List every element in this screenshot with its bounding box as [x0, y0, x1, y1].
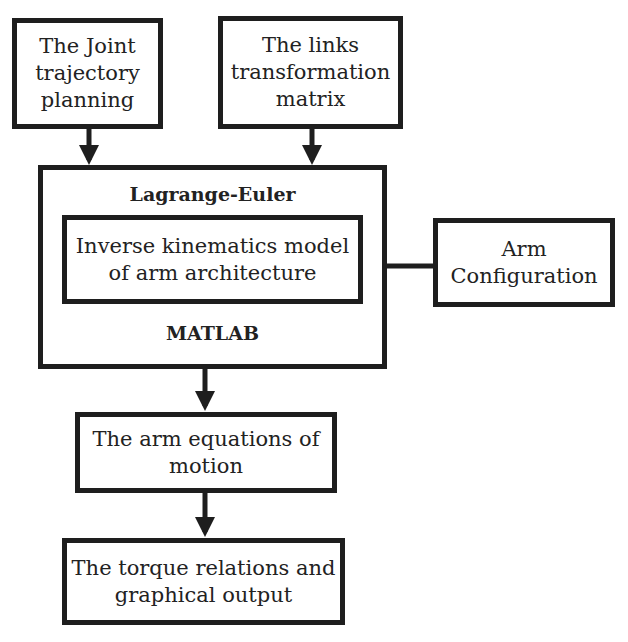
- node-arm-configuration: Arm Configuration: [433, 218, 615, 307]
- node-text-line: Configuration: [450, 263, 597, 290]
- node-inverse-kinematics: Inverse kinematics model of arm architec…: [62, 215, 363, 304]
- node-equations-of-motion: The arm equations of motion: [75, 412, 337, 493]
- node-text-line: trajectory: [35, 60, 140, 87]
- node-links-transformation: The links transformation matrix: [218, 16, 403, 129]
- node-text-line: Inverse kinematics model: [76, 233, 349, 260]
- node-text-line: The links: [262, 32, 359, 59]
- node-text-line: The torque relations and: [72, 555, 336, 582]
- node-text-line: of arm architecture: [109, 260, 317, 287]
- node-text-line: Arm: [501, 236, 546, 263]
- node-text-line: matrix: [276, 86, 345, 113]
- node-text-line: The arm equations of: [93, 426, 320, 453]
- node-text-line: transformation: [231, 59, 391, 86]
- node-text-line: The Joint: [39, 33, 135, 60]
- node-text-line: planning: [41, 87, 134, 114]
- node-text-line: graphical output: [115, 582, 292, 609]
- lagrange-euler-title: Lagrange-Euler: [38, 183, 387, 205]
- node-text-line: motion: [169, 453, 243, 480]
- node-joint-trajectory: The Joint trajectory planning: [12, 18, 163, 129]
- node-torque-relations: The torque relations and graphical outpu…: [62, 538, 345, 625]
- matlab-label: MATLAB: [38, 322, 387, 344]
